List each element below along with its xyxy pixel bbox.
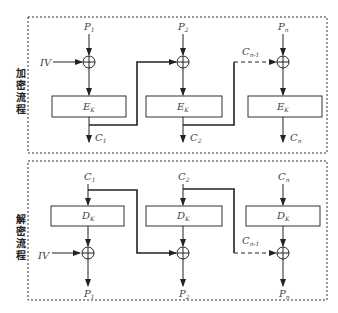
svg-text:C2: C2	[190, 132, 202, 144]
xor-icon	[277, 56, 289, 68]
svg-text:P1: P1	[83, 21, 95, 33]
svg-text:C1: C1	[95, 132, 106, 144]
svg-text:P2: P2	[178, 288, 190, 300]
decryption-iv-label: IV	[37, 250, 51, 261]
encryption-panel: 加 密 流 程 IV P1 EK C1 P2	[15, 17, 327, 153]
xor-icon	[177, 56, 189, 68]
cbc-diagram: 加 密 流 程 IV P1 EK C1 P2	[0, 0, 338, 313]
encryption-block-n: Pn EK Cn	[248, 21, 322, 144]
xor-icon	[277, 247, 289, 259]
svg-text:C2: C2	[178, 171, 190, 183]
decryption-block-1: C1 DK P1	[51, 171, 176, 300]
decryption-side-label-0: 解	[16, 213, 26, 225]
decryption-side-label-1: 密	[16, 225, 26, 237]
svg-text:P1: P1	[83, 288, 95, 300]
xor-icon	[83, 56, 95, 68]
svg-text:Cn: Cn	[290, 132, 302, 144]
decryption-side-label-3: 程	[16, 249, 26, 261]
encryption-frame	[28, 17, 327, 153]
svg-text:Pn: Pn	[278, 288, 290, 300]
decryption-block-n: Cn DK Pn	[246, 171, 320, 300]
decryption-panel: 解 密 流 程 IV C1 DK P1 C2 DK	[16, 161, 327, 300]
svg-text:Pn: Pn	[277, 21, 289, 33]
svg-text:P2: P2	[177, 21, 189, 33]
xor-icon	[177, 247, 189, 259]
svg-text:Cn: Cn	[278, 171, 290, 183]
encryption-iv-label: IV	[39, 57, 53, 68]
encryption-chain-label: Cn-1	[242, 46, 259, 58]
decryption-block-2: C2 DK P2 Cn-1	[146, 171, 276, 300]
xor-icon	[82, 247, 94, 259]
encryption-side-label-2: 流	[16, 91, 26, 103]
encryption-side-label-0: 加	[15, 67, 26, 79]
decryption-side-label-2: 流	[16, 237, 26, 249]
encryption-block-2: P2 EK C2 Cn-1	[146, 21, 276, 144]
decryption-chain-label: Cn-1	[242, 235, 259, 247]
encryption-side-label-3: 程	[16, 103, 26, 115]
encryption-side-label-1: 密	[16, 79, 26, 91]
svg-text:C1: C1	[84, 171, 95, 183]
encryption-block-1: P1 EK C1	[52, 21, 176, 144]
